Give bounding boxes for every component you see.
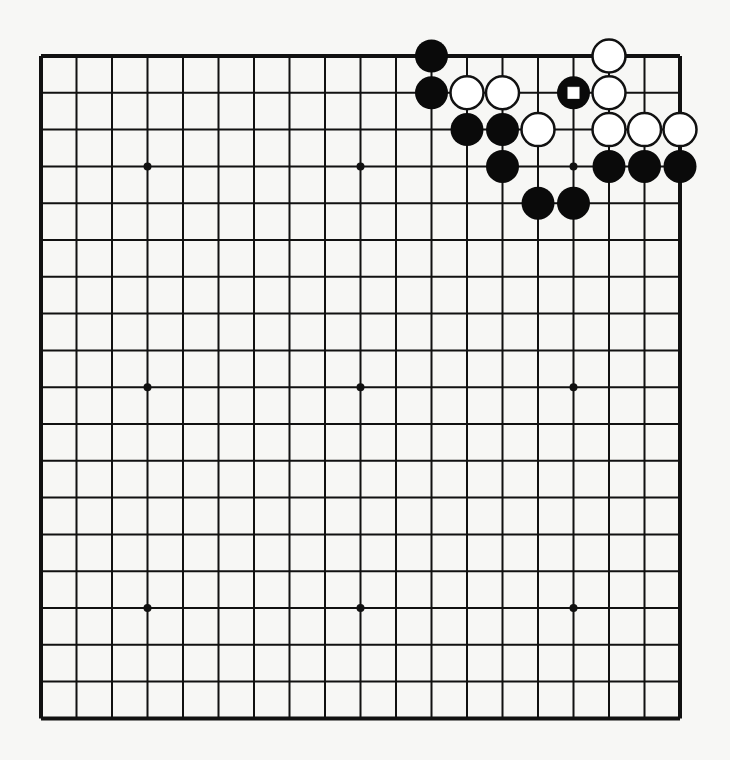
star-point [357,162,365,170]
black-stone [486,113,519,146]
black-stone [451,113,484,146]
black-stone [628,150,661,183]
star-point [357,383,365,391]
white-stone [486,76,519,109]
star-point [144,383,152,391]
square-mark-icon [568,87,579,98]
white-stone [451,76,484,109]
white-stone [593,113,626,146]
stones [415,40,697,220]
white-stone [593,40,626,73]
star-point [144,604,152,612]
black-stone [522,187,555,220]
black-stone [486,150,519,183]
black-stone [557,187,590,220]
black-stone [664,150,697,183]
black-stone [415,76,448,109]
black-stone [415,40,448,73]
star-point [570,162,578,170]
white-stone [664,113,697,146]
star-point [570,383,578,391]
star-point [144,162,152,170]
star-point [357,604,365,612]
star-point [570,604,578,612]
black-stone [593,150,626,183]
white-stone [593,76,626,109]
white-stone [522,113,555,146]
go-board [0,0,730,760]
white-stone [628,113,661,146]
